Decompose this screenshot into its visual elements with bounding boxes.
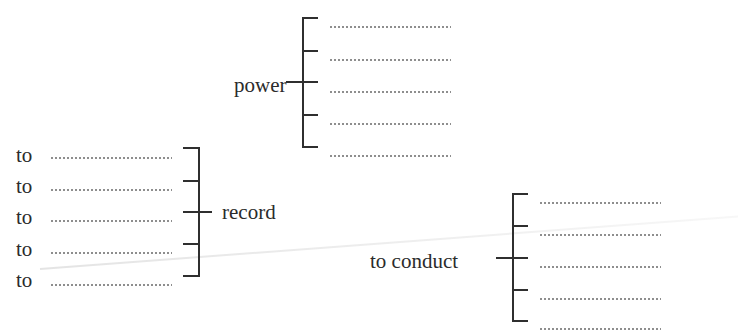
prefix-to-2: to bbox=[16, 176, 32, 197]
bracket-tick bbox=[183, 211, 199, 213]
blank-line-power-5[interactable] bbox=[329, 155, 451, 157]
bracket-tick bbox=[183, 180, 199, 182]
blank-line-power-3[interactable] bbox=[329, 91, 451, 93]
keyword-power: power bbox=[234, 75, 286, 96]
bracket-tick bbox=[512, 320, 528, 322]
blank-line-conduct-3[interactable] bbox=[539, 266, 661, 268]
bracket-stem bbox=[198, 211, 212, 213]
bracket-tick bbox=[183, 275, 199, 277]
blank-line-record-1[interactable] bbox=[50, 157, 172, 159]
bracket-tick bbox=[302, 81, 318, 83]
blank-line-conduct-4[interactable] bbox=[539, 298, 661, 300]
prefix-to-4: to bbox=[16, 239, 32, 260]
blank-line-record-3[interactable] bbox=[50, 220, 172, 222]
bracket-tick bbox=[512, 257, 528, 259]
bracket-stem bbox=[496, 257, 513, 259]
blank-line-conduct-5[interactable] bbox=[539, 328, 661, 330]
blank-line-record-5[interactable] bbox=[50, 284, 172, 286]
bracket-tick bbox=[302, 146, 318, 148]
bracket-tick bbox=[302, 17, 318, 19]
blank-line-record-2[interactable] bbox=[50, 189, 172, 191]
bracket-stem bbox=[286, 81, 303, 83]
bracket-tick bbox=[183, 243, 199, 245]
prefix-to-1: to bbox=[16, 145, 32, 166]
prefix-to-5: to bbox=[16, 270, 32, 291]
bracket-tick bbox=[512, 225, 528, 227]
bracket-tick bbox=[302, 50, 318, 52]
bracket-tick bbox=[183, 147, 199, 149]
keyword-record: record bbox=[222, 202, 276, 223]
keyword-to-conduct: to conduct bbox=[370, 251, 458, 272]
blank-line-power-4[interactable] bbox=[329, 123, 451, 125]
blank-line-conduct-2[interactable] bbox=[539, 234, 661, 236]
bracket-tick bbox=[302, 114, 318, 116]
blank-line-power-2[interactable] bbox=[329, 59, 451, 61]
prefix-to-3: to bbox=[16, 207, 32, 228]
blank-line-power-1[interactable] bbox=[329, 26, 451, 28]
bracket-tick bbox=[512, 289, 528, 291]
blank-line-record-4[interactable] bbox=[50, 252, 172, 254]
blank-line-conduct-1[interactable] bbox=[539, 202, 661, 204]
bracket-tick bbox=[512, 193, 528, 195]
